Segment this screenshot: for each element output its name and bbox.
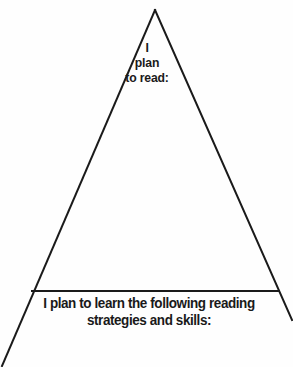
i-plan-to-learn-prompt: I plan to learn the following reading st… (29, 295, 269, 329)
base-prompt-line-2: strategies and skills: (29, 312, 269, 329)
base-prompt-line-1: I plan to learn the following reading (29, 295, 269, 312)
apex-prompt-line-3: to read: (108, 70, 187, 85)
i-plan-to-read-prompt: I plan to read: (108, 40, 187, 85)
apex-prompt-line-1: I (108, 40, 187, 55)
apex-prompt-line-2: plan (108, 55, 187, 70)
worksheet-canvas: I plan to read: I plan to learn the foll… (0, 0, 293, 367)
